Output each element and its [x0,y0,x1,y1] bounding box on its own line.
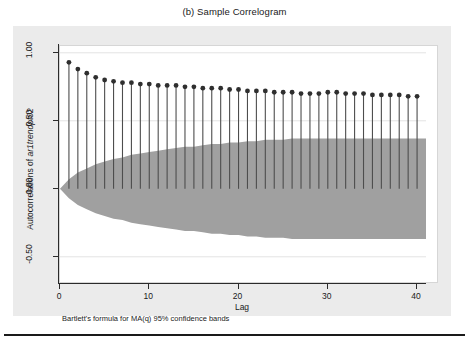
acf-marker [308,91,313,96]
acf-marker [183,84,188,89]
acf-marker [102,78,107,83]
x-tick-2 [238,284,239,289]
acf-marker [343,91,348,96]
bottom-divider-rule [4,334,465,336]
y-axis-title-variable: ar1trendpt02 [25,108,35,156]
y-tick-label-3: 1.00 [9,45,49,55]
acf-marker [174,83,179,88]
acf-marker [209,86,214,91]
acf-marker [227,87,232,92]
acf-marker [218,86,223,91]
acf-marker [75,67,80,72]
x-tick-label-2: 20 [218,291,258,301]
acf-marker [316,91,321,96]
y-axis-title-text: Autocorrelations of [25,156,35,229]
acf-marker [361,91,366,96]
acf-marker [379,93,384,98]
confidence-band-note: Bartlett's formula for MA(q) 95% confide… [62,314,229,323]
y-tick-1 [53,188,58,189]
acf-marker [406,94,411,99]
acf-marker [263,88,268,93]
figure-title: (b) Sample Correlogram [0,6,469,17]
acf-marker [129,80,134,85]
x-tick-4 [416,284,417,289]
acf-marker [370,93,375,98]
acf-marker [397,93,402,98]
correlogram-figure: (b) Sample Correlogram -0.500.000.501.00… [0,0,469,350]
acf-marker [299,91,304,96]
x-tick-label-1: 10 [128,291,168,301]
y-tick-label-text: 1.00 [24,42,34,59]
plot-region [59,45,438,283]
plot-canvas [60,46,438,283]
acf-marker [165,83,170,88]
acf-marker [236,87,241,92]
acf-marker [415,94,420,99]
acf-marker [138,82,143,87]
acf-marker [93,75,98,80]
x-tick-0 [59,284,60,289]
x-tick-label-4: 40 [396,291,436,301]
y-axis-title: Autocorrelations of ar1trendpt02 [25,79,35,259]
x-axis-title: Lag [58,302,426,312]
acf-marker [388,93,393,98]
acf-marker [120,80,125,85]
acf-marker [192,84,197,89]
x-tick-label-3: 30 [307,291,347,301]
acf-marker [147,82,152,87]
acf-marker [254,88,259,93]
acf-marker [200,86,205,91]
acf-marker [281,90,286,95]
x-tick-label-0: 0 [39,291,79,301]
acf-marker [156,83,161,88]
acf-marker [272,90,277,95]
x-tick-1 [148,284,149,289]
y-tick-2 [53,120,58,121]
y-tick-0 [53,256,58,257]
confidence-band [60,138,426,239]
acf-marker [325,90,330,95]
y-axis-line [58,44,59,284]
acf-marker [84,71,89,76]
x-axis-line [58,283,426,284]
acf-marker [334,90,339,95]
acf-marker [290,90,295,95]
acf-marker [245,88,250,93]
acf-marker [111,79,116,84]
stata-graph-panel [13,26,451,316]
acf-marker [67,60,72,65]
x-tick-3 [327,284,328,289]
acf-marker [352,91,357,96]
y-tick-3 [53,52,58,53]
